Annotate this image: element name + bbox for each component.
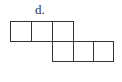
net-square [11, 22, 32, 42]
net-square [53, 42, 74, 62]
cube-net-diagram [0, 0, 122, 82]
net-square [32, 22, 53, 42]
net-square [94, 42, 114, 62]
net-square [74, 42, 94, 62]
net-square [53, 22, 74, 42]
